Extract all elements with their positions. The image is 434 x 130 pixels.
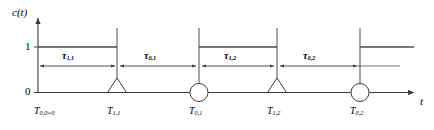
event-label-t00: T0,0=0 — [34, 106, 55, 117]
marker-circle-t02 — [351, 84, 369, 102]
y-tick-label-one: 1 — [25, 41, 31, 52]
event-label-t02: T0,2 — [350, 106, 363, 117]
event-label-t01: T0,1 — [189, 106, 202, 117]
interval-label-tau02: τ0,2 — [303, 51, 315, 62]
interval-label-tau12: τ1,2 — [224, 51, 236, 62]
marker-circle-t01 — [190, 84, 208, 102]
y-tick-marks — [34, 47, 38, 93]
event-label-t11: T1,1 — [107, 106, 120, 117]
marker-triangle-t11 — [108, 78, 127, 93]
y-axis-label: c(t) — [12, 7, 27, 18]
y-tick-label-zero: 0 — [25, 86, 31, 97]
interval-label-tau01: τ0,1 — [144, 51, 156, 62]
interval-label-tau11: τ1,1 — [62, 51, 74, 62]
timing-diagram-figure: c(t) t 1 0 τ1,1 τ0,1 τ1,2 τ0,2 T0,0=0 T1… — [0, 0, 434, 130]
marker-triangle-t12 — [268, 78, 287, 93]
diagram-canvas — [0, 0, 434, 130]
x-axis-label: t — [420, 96, 423, 107]
event-label-t12: T1,2 — [267, 106, 280, 117]
